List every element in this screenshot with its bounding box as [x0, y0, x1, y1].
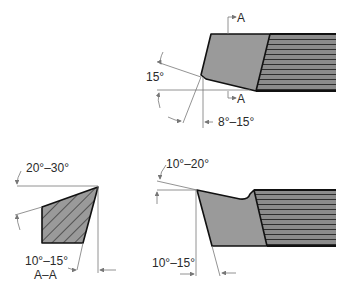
section-marker-bottom [228, 91, 236, 98]
side-angle-label: 15° [146, 71, 164, 83]
end-relief-label: 8°–15° [218, 116, 254, 128]
section-marker-a-bottom: A [237, 93, 245, 105]
tool-geometry-diagram [0, 0, 350, 297]
side-cutting-insert [197, 190, 267, 246]
rake-angle-label: 20°–30° [26, 162, 69, 174]
top-view-tool [157, 17, 336, 128]
back-rake-label: 10°–20° [166, 158, 209, 170]
front-clearance-label: 10°–15° [152, 257, 195, 269]
side-shank [254, 190, 336, 246]
section-hatched-profile [42, 187, 98, 243]
section-marker-a-top: A [237, 12, 245, 24]
clearance-angle-label: 10°–15° [25, 255, 68, 267]
section-title: A–A [34, 269, 57, 281]
section-marker-top [228, 17, 236, 34]
